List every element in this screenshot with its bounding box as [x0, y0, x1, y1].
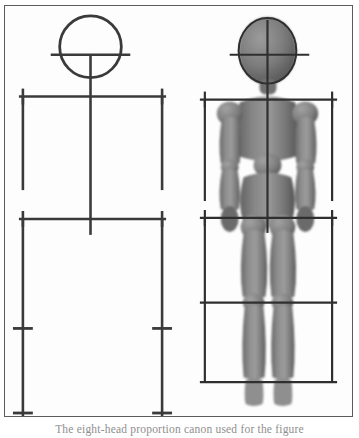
- mannequin-group: [200, 17, 337, 406]
- stick-figure-group: [13, 16, 172, 416]
- illustration-plate: The eight-head proportion canon used for…: [0, 0, 359, 438]
- mannequin-thigh-left: [241, 230, 267, 300]
- plate-caption: The eight-head proportion canon used for…: [0, 424, 359, 436]
- mannequin-shin-left: [242, 305, 265, 380]
- mannequin-shin-right: [271, 305, 294, 380]
- caption-area: The eight-head proportion canon used for…: [0, 424, 359, 438]
- mannequin-upper-arm-right: [295, 117, 316, 166]
- mannequin-thigh-right: [270, 230, 296, 300]
- mannequin-forearm-right: [295, 169, 315, 211]
- mannequin-forearm-left: [219, 169, 239, 211]
- figure-frame: [4, 5, 353, 417]
- mannequin-upper-arm-left: [219, 117, 240, 166]
- figure-diagram-canvas: [5, 6, 352, 416]
